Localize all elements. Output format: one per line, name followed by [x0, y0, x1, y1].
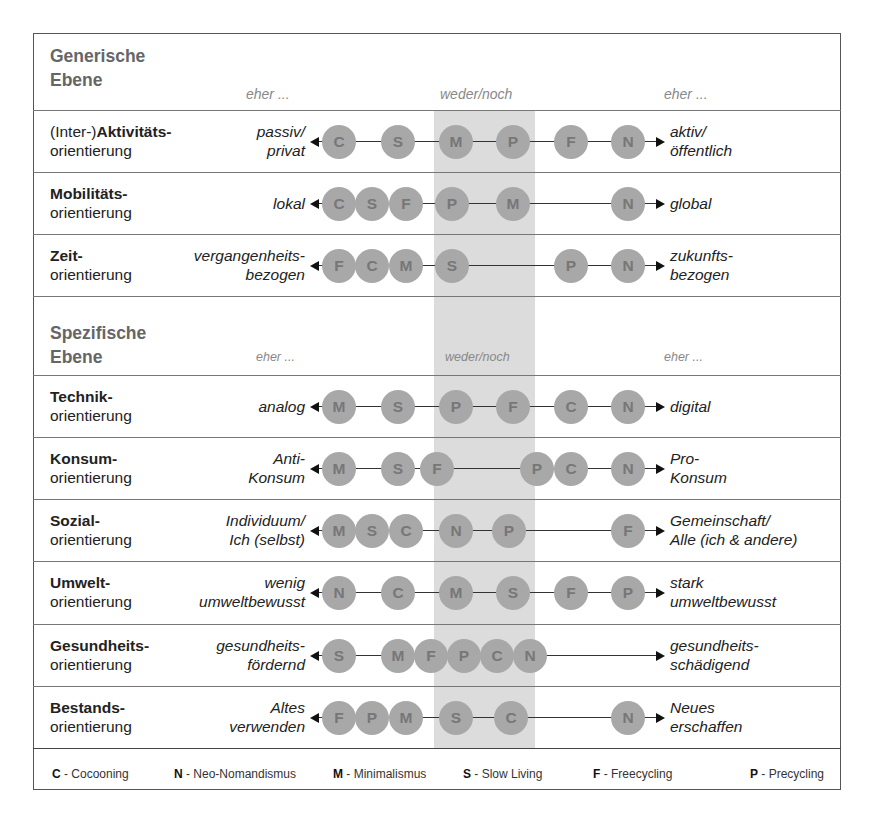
arrow-left-icon [310, 651, 319, 661]
row-label: Konsum-orientierung [50, 449, 132, 487]
right-pole-label: gesundheits-schädigend [670, 636, 759, 674]
legend-item: N - Neo-Nomandismus [174, 767, 296, 781]
trend-node: P [520, 452, 554, 486]
arrow-left-icon [310, 261, 319, 271]
arrow-right-icon [656, 464, 665, 474]
row-label: Gesundheits-orientierung [50, 636, 149, 674]
left-pole-label: passiv/privat [257, 122, 305, 160]
arrow-left-icon [310, 526, 319, 536]
trend-node: F [554, 125, 588, 159]
row-label-bold: Zeit- [50, 247, 83, 264]
row-label-bold: Bestands- [50, 699, 125, 716]
specific-header-left: eher ... [256, 350, 295, 364]
left-pole-label: Individuum/Ich (selbst) [226, 511, 305, 549]
trend-node: P [435, 187, 469, 221]
row-label-bold: Konsum- [50, 450, 117, 467]
row-label-line2: orientierung [50, 655, 149, 674]
trend-node: C [554, 452, 588, 486]
trend-node: M [322, 452, 356, 486]
row-label-line2: orientierung [50, 406, 132, 425]
trend-node: P [447, 639, 481, 673]
trend-node: S [355, 187, 389, 221]
trend-node: C [554, 390, 588, 424]
trend-node: F [496, 390, 530, 424]
trend-node: N [611, 249, 645, 283]
trend-node: F [554, 576, 588, 610]
trend-node: S [439, 701, 473, 735]
right-pole-label: Pro-Konsum [670, 449, 727, 487]
trend-node: P [439, 390, 473, 424]
row-label-prefix: (Inter-) [50, 123, 97, 140]
trend-node: P [355, 701, 389, 735]
trend-node: S [381, 452, 415, 486]
left-pole-label: Anti-Konsum [248, 449, 305, 487]
legend-text: - Minimalismus [343, 767, 426, 781]
legend-item: P - Precycling [750, 767, 824, 781]
arrow-right-icon [656, 588, 665, 598]
row-label-bold: Technik- [50, 388, 113, 405]
trend-node: N [611, 701, 645, 735]
row-separator [33, 686, 841, 687]
arrow-left-icon [310, 137, 319, 147]
trend-node: N [513, 639, 547, 673]
trend-node: S [381, 390, 415, 424]
scale-axis-line [314, 406, 658, 407]
arrow-left-icon [310, 199, 319, 209]
trend-node: S [322, 639, 356, 673]
arrow-right-icon [656, 402, 665, 412]
trend-node: M [389, 701, 423, 735]
trend-node: C [355, 249, 389, 283]
legend-item: S - Slow Living [463, 767, 542, 781]
generic-section-title: Generische Ebene [50, 44, 145, 92]
legend-item: M - Minimalismus [333, 767, 426, 781]
legend-text: - Freecycling [600, 767, 672, 781]
right-pole-label: Gemeinschaft/Alle (ich & andere) [670, 511, 798, 549]
row-label: Mobilitäts-orientierung [50, 184, 132, 222]
row-label: Technik-orientierung [50, 387, 132, 425]
left-pole-label: analog [258, 397, 305, 416]
trend-node: M [496, 187, 530, 221]
row-label-line2: orientierung [50, 530, 132, 549]
trend-node: C [322, 125, 356, 159]
trend-node: N [611, 187, 645, 221]
trend-node: N [322, 576, 356, 610]
left-pole-label: gesundheits-fördernd [216, 636, 305, 674]
legend-key: M [333, 767, 343, 781]
right-pole-label: starkumweltbewusst [670, 573, 776, 611]
trend-node: M [389, 249, 423, 283]
trend-node: M [381, 639, 415, 673]
trend-node: N [611, 390, 645, 424]
legend-key: N [174, 767, 183, 781]
row-separator [33, 375, 841, 376]
right-pole-label: digital [670, 397, 711, 416]
row-separator [33, 437, 841, 438]
row-label-line2: orientierung [50, 265, 132, 284]
row-label-bold: Sozial- [50, 512, 100, 529]
row-label-bold: Mobilitäts- [50, 185, 128, 202]
row-label-line2: orientierung [50, 717, 132, 736]
trend-node: C [480, 639, 514, 673]
arrow-right-icon [656, 199, 665, 209]
row-label-line2: orientierung [50, 592, 132, 611]
trend-node: P [554, 249, 588, 283]
row-label-line2: orientierung [50, 468, 132, 487]
legend-key: S [463, 767, 471, 781]
row-label: Sozial-orientierung [50, 511, 132, 549]
left-pole-label: vergangenheits-bezogen [194, 246, 305, 284]
trend-node: F [322, 701, 356, 735]
right-pole-label: global [670, 194, 711, 213]
generic-header-left: eher ... [246, 86, 290, 102]
arrow-right-icon [656, 137, 665, 147]
right-pole-label: aktiv/öffentlich [670, 122, 732, 160]
row-separator [33, 499, 841, 500]
legend-item: C - Cocooning [52, 767, 129, 781]
arrow-right-icon [656, 526, 665, 536]
trend-node: S [435, 249, 469, 283]
specific-header-right: eher ... [664, 350, 703, 364]
trend-node: P [611, 576, 645, 610]
row-separator [33, 624, 841, 625]
legend-item: F - Freecycling [593, 767, 672, 781]
row-label-bold: Umwelt- [50, 574, 110, 591]
legend-text: - Cocooning [61, 767, 129, 781]
left-pole-label: wenigumweltbewusst [199, 573, 305, 611]
